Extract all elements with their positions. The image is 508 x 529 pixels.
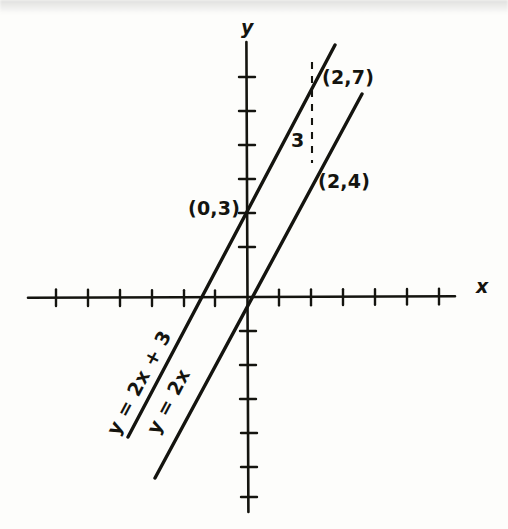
point-label-2-7: (2,7) xyxy=(322,68,374,87)
y-axis-label: y xyxy=(241,18,253,37)
point-label-0-3: (0,3) xyxy=(188,199,240,218)
y-axis xyxy=(239,42,257,512)
segment-length-label: 3 xyxy=(291,131,304,150)
line-y-equals-2x xyxy=(155,94,362,478)
x-axis-line xyxy=(28,296,455,298)
line-y-equals-2x-plus-3 xyxy=(128,45,335,437)
x-axis xyxy=(28,289,455,306)
y-axis-line xyxy=(246,42,248,512)
x-axis-label: x xyxy=(476,277,488,296)
point-label-2-4: (2,4) xyxy=(318,172,370,191)
figure-canvas: x y (2,7) (2,4) (0,3) 3 y = 2x + 3 y = 2… xyxy=(0,0,508,529)
coordinate-plane-graph xyxy=(0,0,508,529)
